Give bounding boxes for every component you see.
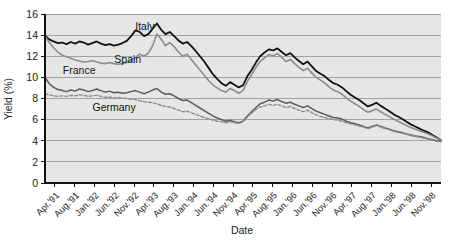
y-tick-label: 16 <box>26 8 38 20</box>
series-annotation: Germany <box>93 101 137 113</box>
x-axis: Apr.'91Aug.'91Jan.'92Jun.'92Nov.'92Apr.'… <box>34 183 441 219</box>
y-tick-label: 12 <box>26 50 38 62</box>
y-tick-label: 2 <box>32 156 38 168</box>
y-axis: 0246810121416 <box>26 8 45 189</box>
y-tick-label: 8 <box>32 92 38 104</box>
y-axis-title: Yield (%) <box>2 78 14 120</box>
y-tick-label: 10 <box>26 71 38 83</box>
series-annotation: Spain <box>114 53 141 65</box>
series-annotation: France <box>63 64 96 76</box>
yield-chart: 0246810121416 Apr.'91Aug.'91Jan.'92Jun.'… <box>0 0 455 242</box>
series-annotation: Italy <box>135 20 155 32</box>
y-tick-label: 0 <box>32 177 38 189</box>
y-tick-label: 14 <box>26 29 38 41</box>
y-tick-label: 6 <box>32 113 38 125</box>
x-axis-title: Date <box>231 224 253 236</box>
chart-canvas: 0246810121416 Apr.'91Aug.'91Jan.'92Jun.'… <box>0 0 455 242</box>
y-tick-label: 4 <box>32 135 38 147</box>
